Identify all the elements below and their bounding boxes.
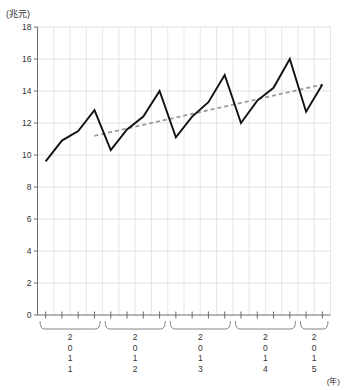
- x-axis-year-label-char: 5: [312, 364, 317, 374]
- y-tick-label: 2: [27, 278, 32, 288]
- x-axis-year-label-char: 0: [263, 343, 268, 353]
- x-axis-year-label-char: 2: [133, 364, 138, 374]
- year-group-brace: [300, 321, 328, 329]
- y-tick-label: 8: [27, 182, 32, 192]
- x-axis-year-label-char: 0: [198, 343, 203, 353]
- x-axis-year-label-char: 4: [263, 364, 268, 374]
- year-group-brace: [105, 321, 165, 329]
- x-axis-year-label-char: 1: [198, 353, 203, 363]
- x-axis-year-label-char: 2: [133, 332, 138, 342]
- line-chart-plot: 02468101214161820112012201320142015: [0, 0, 344, 390]
- x-axis-year-label-char: 1: [68, 364, 73, 374]
- x-axis-year-label-char: 0: [68, 343, 73, 353]
- x-axis-year-label-char: 0: [312, 343, 317, 353]
- x-axis-year-label-char: 2: [198, 332, 203, 342]
- year-group-brace: [235, 321, 295, 329]
- x-axis-year-label-char: 2: [68, 332, 73, 342]
- x-axis-year-label-char: 1: [133, 353, 138, 363]
- y-tick-label: 10: [22, 150, 32, 160]
- x-axis-year-label-char: 1: [68, 353, 73, 363]
- x-axis-year-label-char: 1: [312, 353, 317, 363]
- y-tick-label: 18: [22, 22, 32, 32]
- x-axis-unit-label: (年): [327, 375, 340, 386]
- chart-container: (兆元) 02468101214161820112012201320142015…: [0, 0, 344, 390]
- y-tick-label: 6: [27, 214, 32, 224]
- y-tick-label: 12: [22, 118, 32, 128]
- y-tick-label: 14: [22, 86, 32, 96]
- y-tick-label: 0: [27, 310, 32, 320]
- x-axis-year-label-char: 1: [263, 353, 268, 363]
- x-axis-year-label-char: 0: [133, 343, 138, 353]
- x-axis-year-label-char: 2: [312, 332, 317, 342]
- y-tick-label: 16: [22, 54, 32, 64]
- x-axis-year-label-char: 3: [198, 364, 203, 374]
- year-group-brace: [40, 321, 100, 329]
- y-tick-label: 4: [27, 246, 32, 256]
- x-axis-year-label-char: 2: [263, 332, 268, 342]
- year-group-brace: [170, 321, 230, 329]
